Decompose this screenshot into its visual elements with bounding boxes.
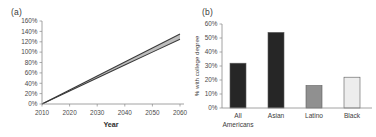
projection-line-lower (42, 39, 180, 104)
y-tick-label: 40% (205, 48, 218, 55)
y-tick-label: 0% (28, 100, 38, 107)
bar-asian[interactable] (268, 32, 284, 108)
bar-black[interactable] (344, 77, 360, 108)
y-tick-label: 60% (205, 20, 218, 27)
category-label-all-americans-line1: All (234, 112, 242, 119)
line-chart-svg: 160% 140% 120% 100% 80% 60% 40% 20% 0% (0, 0, 188, 137)
x-axis-category-labels-b: All Americans Asian Latino Black (222, 112, 360, 128)
y-tick-label: 0% (208, 104, 218, 111)
bar-chart-svg: 60% 50% 40% 30% 20% 10% 0% % with colleg… (188, 0, 376, 137)
category-label-all-americans-line2: Americans (222, 121, 254, 128)
projection-line-upper (42, 34, 180, 104)
x-axis-title-a: Year (103, 120, 118, 129)
bars-group (230, 32, 360, 108)
y-tick-label: 140% (21, 28, 38, 35)
panel-a-label: (a) (11, 7, 22, 17)
x-tick-label: 2010 (35, 109, 50, 116)
y-tick-label: 120% (21, 38, 38, 45)
x-tick-label: 2050 (145, 109, 160, 116)
y-tick-label: 20% (205, 76, 218, 83)
y-axis-title-b: % with college degree (193, 35, 200, 96)
x-tick-label: 2040 (118, 109, 133, 116)
y-tick-label: 80% (25, 59, 38, 66)
bar-latino[interactable] (306, 86, 322, 108)
category-label-latino: Latino (305, 112, 323, 119)
y-tick-label: 10% (205, 90, 218, 97)
y-tick-label: 160% (21, 17, 38, 24)
bar-all-americans[interactable] (230, 63, 246, 108)
y-tick-label: 40% (25, 80, 38, 87)
x-tick-label: 2020 (62, 109, 77, 116)
y-tick-label: 60% (25, 69, 38, 76)
panel-b-label: (b) (202, 7, 213, 17)
category-label-black: Black (344, 112, 361, 119)
y-tick-label: 30% (205, 62, 218, 69)
panel-a-line-chart: (a) (0, 0, 188, 137)
y-tick-label: 50% (205, 34, 218, 41)
x-axis-tick-labels-a: 2010 2020 2030 2040 2050 2060 (35, 109, 188, 116)
y-axis-tick-labels-b: 60% 50% 40% 30% 20% 10% 0% (205, 20, 218, 111)
x-tick-label: 2030 (90, 109, 105, 116)
y-tick-label: 20% (25, 90, 38, 97)
category-label-asian: Asian (268, 112, 285, 119)
y-axis-tick-labels-a: 160% 140% 120% 100% 80% 60% 40% 20% 0% (21, 17, 38, 107)
panel-b-bar-chart: (b) 60% (188, 0, 376, 137)
y-tick-label: 100% (21, 48, 38, 55)
x-tick-label: 2060 (173, 109, 188, 116)
two-panel-figure: (a) (0, 0, 376, 137)
